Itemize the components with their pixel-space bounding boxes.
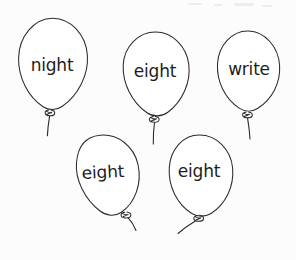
string-icon	[178, 221, 195, 233]
balloon-word-3: write	[228, 59, 270, 79]
knot-icon	[149, 116, 159, 122]
string-icon	[248, 118, 250, 139]
knot-icon	[121, 212, 131, 218]
balloon-illustration-canvas: night eight write eight eigh	[0, 0, 296, 260]
string-icon	[47, 116, 49, 135]
balloon-word-5: eight	[178, 161, 221, 181]
string-icon	[128, 218, 136, 230]
balloon-word-1: night	[31, 55, 74, 75]
scan-artifacts	[188, 3, 272, 7]
knot-icon	[45, 110, 55, 116]
balloon-1[interactable]: night	[19, 18, 88, 135]
string-icon	[153, 123, 154, 144]
balloon-3[interactable]: write	[217, 31, 279, 139]
balloon-2[interactable]: eight	[123, 32, 189, 144]
balloon-5[interactable]: eight	[169, 135, 233, 234]
worksheet-page: night eight write eight eigh	[0, 0, 296, 260]
balloon-word-4: eight	[81, 161, 125, 183]
knot-icon	[243, 112, 253, 118]
balloon-4[interactable]: eight	[76, 135, 139, 230]
balloon-word-2: eight	[134, 61, 177, 81]
